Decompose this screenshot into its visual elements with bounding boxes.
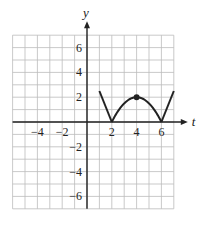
curve-segment (99, 91, 111, 122)
x-tick-label: −2 (56, 125, 69, 139)
x-axis-label: t (192, 114, 196, 129)
y-tick-label: 2 (76, 90, 82, 104)
y-tick-label: 6 (76, 41, 82, 55)
data-point (134, 94, 140, 100)
x-axis-arrow-icon (181, 119, 188, 125)
y-tick-label: −2 (69, 140, 82, 154)
chart: t y −4−2246642−2−4−6 (0, 0, 201, 228)
x-tick-label: 6 (158, 125, 164, 139)
y-axis-label: y (81, 5, 89, 20)
y-axis-arrow-icon (84, 21, 90, 28)
curve-segment (161, 91, 173, 122)
y-tick-label: −4 (69, 165, 82, 179)
y-tick-label: 4 (76, 65, 82, 79)
x-tick-label: 4 (134, 125, 140, 139)
y-tick-label: −6 (69, 189, 82, 203)
x-tick-label: 2 (109, 125, 115, 139)
x-tick-label: −4 (31, 125, 44, 139)
